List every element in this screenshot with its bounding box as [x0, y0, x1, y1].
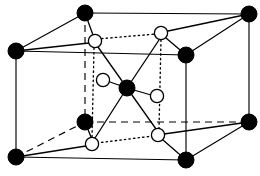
open-atom-upper-left [88, 34, 101, 47]
filled-atom-bottom-back-right [241, 114, 257, 130]
bond-botbackright-to-open-lower-right [164, 122, 249, 134]
filled-atom-top-front-right [178, 47, 194, 63]
filled-atoms-group [8, 5, 257, 168]
bond-center-to-open-upper-right [127, 40, 159, 88]
dotted-right-vertical [159, 40, 161, 129]
dotted-bottom-connector [97, 136, 153, 143]
crystal-structure-diagram [0, 0, 260, 176]
filled-atom-top-front-left [8, 43, 24, 59]
bond-center-to-open-lower-left [95, 88, 127, 138]
bond-botfrontleft-to-open-lower-left [16, 146, 86, 157]
edge-bottom-right-diagonal [186, 122, 249, 160]
filled-atom-top-back-left [77, 5, 93, 21]
crystal-structure-figure [0, 0, 260, 176]
filled-atom-bottom-front-left [8, 149, 24, 165]
open-atom-mid-right [150, 89, 163, 102]
edge-top-left-diagonal [16, 13, 85, 51]
bond-topfrontleft-to-open-upper-left [16, 43, 89, 51]
open-atom-lower-right [151, 128, 164, 141]
filled-atom-center [119, 80, 135, 96]
edge-top-back [85, 13, 249, 14]
filled-atom-bottom-front-right [178, 152, 194, 168]
edge-bottom-front [16, 157, 186, 160]
filled-atom-bottom-back-left [77, 114, 93, 130]
open-atom-mid-left [96, 73, 109, 86]
filled-atom-top-back-right [241, 6, 257, 22]
dotted-top-connector [97, 34, 156, 39]
open-atom-lower-left [85, 137, 98, 150]
open-atom-upper-right [154, 26, 167, 39]
